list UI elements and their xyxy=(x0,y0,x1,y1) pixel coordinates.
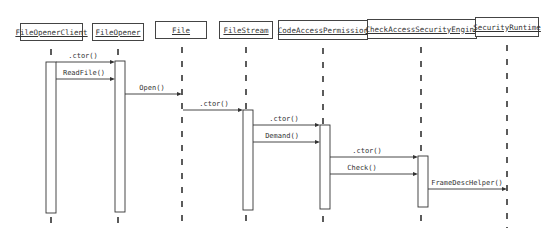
participant-box: CheckAccessSecurityEngine xyxy=(367,19,477,39)
arrowhead-icon xyxy=(238,108,243,112)
message-label: .ctor() xyxy=(199,100,229,108)
message-label: FrameDescHelper() xyxy=(431,179,503,187)
message-label: Check() xyxy=(347,164,377,172)
participant-label: CheckAccessSecurityEngine xyxy=(366,25,479,34)
message-label: ReadFile() xyxy=(63,69,105,77)
sequence-diagram: FileOpenerClientFileOpenerFileFileStream… xyxy=(0,0,553,243)
participant-label: FileOpener xyxy=(95,28,140,37)
participant-box: FileOpenerClient xyxy=(20,23,83,41)
activation-bar xyxy=(243,110,253,210)
message-label: .ctor() xyxy=(269,115,299,123)
message-label: Demand() xyxy=(265,132,299,140)
activation-bar xyxy=(320,125,330,209)
message-label: Open() xyxy=(139,84,164,92)
arrowhead-icon xyxy=(110,77,115,81)
participant-label: SecurityRuntime xyxy=(473,23,541,32)
participant-label: FileOpenerClient xyxy=(15,28,87,37)
arrowhead-icon xyxy=(315,123,320,127)
participant-box: SecurityRuntime xyxy=(475,17,539,37)
activation-bar xyxy=(115,61,125,212)
participant-label: FileStream xyxy=(223,26,268,35)
participant-label: CodeAccessPermission xyxy=(278,26,368,35)
message-label: .ctor() xyxy=(68,52,98,60)
participant-label: File xyxy=(172,26,190,35)
arrowhead-icon xyxy=(413,172,418,176)
arrowhead-icon xyxy=(110,60,115,64)
participant-box: FileStream xyxy=(219,21,273,39)
participant-box: File xyxy=(155,21,207,39)
message-label: .ctor() xyxy=(352,147,382,155)
participant-box: CodeAccessPermission xyxy=(278,20,368,40)
activation-bar xyxy=(418,156,428,207)
activation-bar xyxy=(46,62,56,213)
arrowhead-icon xyxy=(413,155,418,159)
arrowhead-icon xyxy=(315,140,320,144)
participant-box: FileOpener xyxy=(92,23,144,41)
